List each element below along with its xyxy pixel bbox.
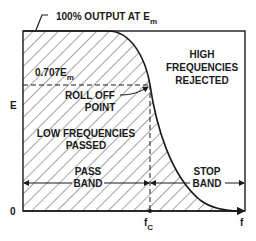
low-freq-label-2: PASSED [66,140,106,151]
cutoff-point-dot [148,209,152,213]
rolloff-label-1: ROLL OFF [65,90,115,101]
top-label-leader [36,15,48,30]
rolloff-label-2: POINT [85,102,116,113]
low-pass-filter-diagram: 100% OUTPUT AT Em 0.707Em HIGH FREQUENCI… [0,0,256,241]
stop-band-label-1: STOP [193,166,220,177]
low-freq-label-1: LOW FREQUENCIES [37,128,136,139]
pass-band-label-1: PASS [75,166,102,177]
cutoff-label: fC [144,217,153,232]
stop-band-label-2: BAND [193,178,222,189]
y-axis-label: E [10,100,17,111]
high-freq-label-2: FREQUENCIES [166,62,239,73]
origin-label: 0 [10,206,16,217]
top-label: 100% OUTPUT AT Em [56,11,157,26]
high-freq-label-3: REJECTED [175,75,228,86]
x-axis-label: f [240,217,244,228]
high-freq-label-1: HIGH [190,49,215,60]
pass-band-label-2: BAND [74,178,103,189]
